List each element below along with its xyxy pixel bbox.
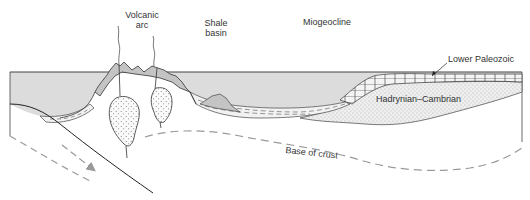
- volcano-plume-left: [118, 26, 120, 64]
- label-miogeocline: Miogeocline: [303, 17, 351, 27]
- pluton-left-root: [126, 146, 127, 158]
- label-shale-basin: Shale basin: [200, 18, 232, 38]
- label-volcanic-arc-line2: arc: [120, 20, 164, 30]
- label-shale-basin-line1: Shale: [200, 18, 232, 28]
- label-lower-paleozoic: Lower Paleozoic: [448, 54, 514, 64]
- subduction-direction-arrow: [62, 145, 94, 170]
- label-hadrynian-cambrian: Hadrynian–Cambrian: [376, 94, 461, 104]
- label-volcanic-arc: Volcanic arc: [120, 10, 164, 30]
- volcano-plume-right: [153, 36, 155, 66]
- pluton-right: [151, 88, 172, 123]
- volcanic-arc-edifice: [95, 62, 190, 96]
- pluton-right-root: [160, 122, 161, 128]
- label-volcanic-arc-line1: Volcanic: [120, 10, 164, 20]
- pluton-left: [109, 96, 139, 146]
- label-shale-basin-line2: basin: [200, 28, 232, 38]
